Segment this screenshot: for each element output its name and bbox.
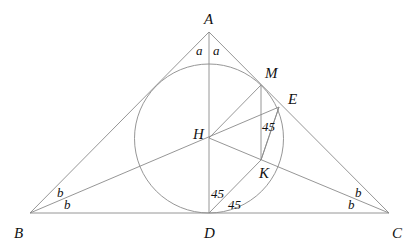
angle-label-a-left: a <box>196 43 203 58</box>
angle-label-a-right: a <box>213 43 220 58</box>
label-point-K: K <box>258 165 270 181</box>
angle-label-45-D-upper: 45 <box>211 186 225 201</box>
segment-HM <box>209 85 261 138</box>
angle-label-b-B-lower: b <box>64 197 71 212</box>
angle-label-b-B-upper: b <box>57 185 64 200</box>
label-point-A: A <box>203 11 214 27</box>
label-point-D: D <box>203 225 215 241</box>
angle-label-45-D-lower: 45 <box>228 197 242 212</box>
label-point-M: M <box>264 65 279 81</box>
angle-label-45-E: 45 <box>262 119 276 134</box>
label-point-E: E <box>287 91 297 107</box>
geometry-diagram: A B C D H M E K a a b b b b 45 45 45 <box>0 0 420 245</box>
angle-label-b-C-lower: b <box>348 197 355 212</box>
label-point-B: B <box>14 225 23 241</box>
label-point-C: C <box>392 225 403 241</box>
angle-label-b-C-upper: b <box>355 185 362 200</box>
label-point-H: H <box>192 126 205 142</box>
